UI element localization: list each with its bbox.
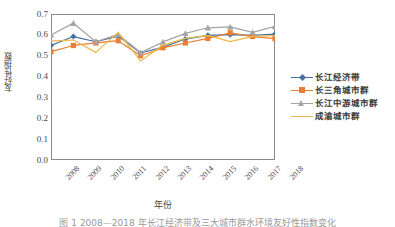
legend-marker-triangle-icon [298, 100, 304, 106]
x-tick-label: 2008 [64, 164, 82, 182]
legend-label: 长江经济带 [315, 72, 360, 82]
y-axis-tick-labels: 0.00.10.20.30.40.50.60.7 [20, 0, 48, 227]
legend-swatch-1 [291, 72, 313, 83]
x-tick-label: 2018 [288, 164, 306, 182]
x-tick-label: 2016 [243, 164, 261, 182]
legend-marker-diamond-icon [298, 73, 305, 80]
legend-label: 成渝城市群 [315, 111, 360, 121]
legend-swatch-2 [291, 85, 313, 96]
x-tick-label: 2011 [131, 164, 148, 181]
y-tick-label: 0.1 [20, 135, 48, 144]
chart-legend: 长江经济带长三角城市群长江中游城市群成渝城市群 [291, 71, 395, 123]
y-tick-label: 0.7 [20, 10, 48, 19]
y-tick-label: 0.3 [20, 93, 48, 102]
legend-item[interactable]: 成渝城市群 [291, 110, 395, 122]
x-tick-label: 2014 [198, 164, 216, 182]
y-tick-label: 0.5 [20, 51, 48, 60]
y-axis-title: 友好性指数 [4, 52, 20, 92]
figure-caption: 图 1 2008—2018 年长江经济带及三大城市群水环境友好性指数变化 [0, 218, 395, 227]
legend-marker-square-icon [299, 87, 305, 93]
x-tick-label: 2017 [265, 164, 283, 182]
y-tick-label: 0.0 [20, 156, 48, 165]
x-tick-label: 2009 [86, 164, 104, 182]
y-tick-label: 0.6 [20, 30, 48, 39]
legend-item[interactable]: 长江中游城市群 [291, 97, 395, 109]
x-tick-label: 2015 [220, 164, 238, 182]
legend-label: 长三角城市群 [315, 85, 369, 95]
chart-figure: 友好性指数 0.00.10.20.30.40.50.60.7 200820092… [0, 0, 395, 227]
legend-item[interactable]: 长三角城市群 [291, 84, 395, 96]
x-tick-label: 2012 [153, 164, 171, 182]
chart-series-canvas [51, 14, 275, 160]
legend-item[interactable]: 长江经济带 [291, 71, 395, 83]
x-tick-label: 2013 [176, 164, 194, 182]
y-tick-label: 0.4 [20, 72, 48, 81]
y-tick-label: 0.2 [20, 114, 48, 123]
x-axis-title: 年份 [51, 200, 275, 210]
x-tick-label: 2010 [108, 164, 126, 182]
legend-line [291, 116, 313, 117]
legend-label: 长江中游城市群 [315, 98, 378, 108]
x-axis-tick-labels: 2008200920102011201220132014201520162017… [51, 160, 275, 190]
legend-swatch-3 [291, 98, 313, 109]
legend-swatch-4 [291, 111, 313, 122]
